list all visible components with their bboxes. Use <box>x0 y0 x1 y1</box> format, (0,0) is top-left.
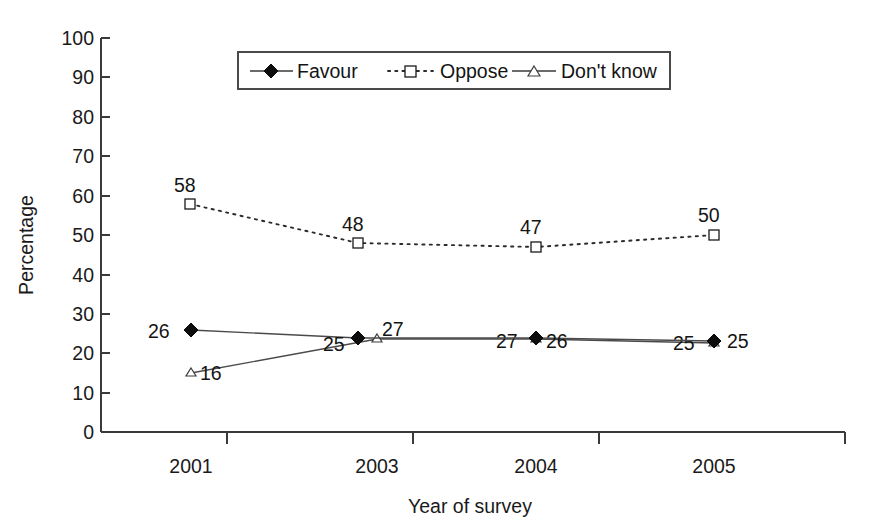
dontknow-label-2001: 16 <box>200 362 222 384</box>
y-tick-label-0: 0 <box>83 421 94 443</box>
y-tick-label-10: 10 <box>72 382 94 404</box>
x-tick-labels: 2001 2003 2004 2005 <box>169 455 736 477</box>
y-tick-label-80: 80 <box>72 106 94 128</box>
legend-square-icon <box>405 66 416 77</box>
dontknow-label-2003: 27 <box>382 318 404 340</box>
favour-marker-2004 <box>529 331 543 345</box>
oppose-label-2004: 47 <box>520 216 542 238</box>
favour-marker-2001 <box>184 323 198 337</box>
y-tick-label-50: 50 <box>72 224 94 246</box>
x-axis-title: Year of survey <box>408 495 532 517</box>
oppose-label-2001: 58 <box>174 174 196 196</box>
x-tick-marks <box>227 432 599 444</box>
y-tick-label-60: 60 <box>72 185 94 207</box>
chart-container: 100 90 80 70 60 50 40 30 20 10 0 2001 20… <box>0 0 874 530</box>
series-dontknow: 16 27 27 25 <box>186 318 719 384</box>
line-chart: 100 90 80 70 60 50 40 30 20 10 0 2001 20… <box>0 0 874 530</box>
series-oppose: 58 48 47 50 <box>174 174 720 252</box>
x-tick-label-2004: 2004 <box>514 455 558 477</box>
oppose-line <box>190 204 714 247</box>
oppose-marker-2005 <box>709 230 719 240</box>
y-axis-title: Percentage <box>15 195 37 295</box>
y-tick-label-90: 90 <box>72 66 94 88</box>
y-tick-label-20: 20 <box>72 342 94 364</box>
dontknow-label-2004: 27 <box>496 330 518 352</box>
legend-label-oppose: Oppose <box>440 60 508 82</box>
oppose-marker-2003 <box>353 238 363 248</box>
oppose-label-2005: 50 <box>698 204 720 226</box>
legend-label-favour: Favour <box>297 60 358 82</box>
series-favour: 26 25 26 25 <box>148 320 749 355</box>
y-tick-labels: 100 90 80 70 60 50 40 30 20 10 0 <box>61 27 94 443</box>
y-tick-label-100: 100 <box>61 27 94 49</box>
x-tick-label-2001: 2001 <box>169 455 212 477</box>
oppose-marker-2001 <box>185 199 195 209</box>
x-tick-label-2003: 2003 <box>355 455 398 477</box>
legend-label-dontknow: Don't know <box>561 60 658 82</box>
y-tick-label-40: 40 <box>72 264 94 286</box>
oppose-marker-2004 <box>531 242 541 252</box>
y-tick-label-30: 30 <box>72 303 94 325</box>
dontknow-line <box>191 339 714 373</box>
y-tick-marks <box>101 38 110 432</box>
favour-label-2001: 26 <box>148 320 170 342</box>
favour-label-2004: 26 <box>546 330 568 352</box>
favour-label-2005: 25 <box>727 330 749 352</box>
oppose-label-2003: 48 <box>342 213 364 235</box>
dontknow-label-2005: 25 <box>673 332 695 354</box>
y-tick-label-70: 70 <box>72 145 94 167</box>
favour-label-2003: 25 <box>323 333 345 355</box>
chart-legend: Favour Oppose Don't know <box>238 52 670 89</box>
x-tick-label-2005: 2005 <box>692 455 736 477</box>
